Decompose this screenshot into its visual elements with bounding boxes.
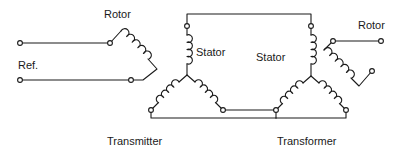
- label-rotor-left: Rotor: [104, 9, 131, 20]
- terminal-transformer-rotor-inner: [331, 39, 336, 44]
- transformer-stator-top-leg: [311, 26, 316, 76]
- label-stator-left: Stator: [196, 47, 225, 58]
- terminals-group: [18, 24, 384, 113]
- label-rotor-right: Rotor: [358, 20, 385, 31]
- terminal-transformer-stator-top: [309, 24, 314, 29]
- terminal-transmitter-stator-top: [185, 24, 190, 29]
- interconnect-bottom-lower-wire: [151, 110, 346, 118]
- label-transformer: Transformer: [277, 136, 337, 147]
- transmitter-stator-top-leg: [187, 26, 192, 75]
- terminal-transmitter-stator-right: [221, 108, 226, 113]
- terminal-transformer-rotor-outer: [379, 39, 384, 44]
- label-stator-right: Stator: [256, 52, 285, 63]
- transmitter-stator-right-leg: [187, 75, 223, 110]
- terminal-transformer-stator-left: [274, 108, 279, 113]
- transformer-rotor-winding: [324, 41, 381, 86]
- synchro-schematic-svg: [0, 0, 409, 159]
- interconnect-top-wire: [187, 14, 311, 26]
- transmitter-stator-left-leg: [151, 75, 187, 110]
- transformer-stator-right-leg: [311, 76, 346, 110]
- schematic-figure: Rotor Rotor Ref. Stator Stator Transmitt…: [0, 0, 409, 159]
- terminal-ref-top: [18, 41, 23, 46]
- terminal-transmitter-stator-left: [149, 108, 154, 113]
- terminal-transmitter-rotor-bottom: [129, 78, 134, 83]
- terminal-ref-bottom: [18, 78, 23, 83]
- transformer-stator-left-leg: [276, 76, 311, 110]
- label-transmitter: Transmitter: [107, 136, 162, 147]
- label-reference: Ref.: [18, 60, 38, 71]
- terminal-transmitter-rotor-top: [108, 41, 113, 46]
- terminal-transformer-stator-right: [344, 108, 349, 113]
- transmitter-rotor-winding: [110, 29, 157, 80]
- terminal-transformer-rotor-bottom: [370, 69, 375, 74]
